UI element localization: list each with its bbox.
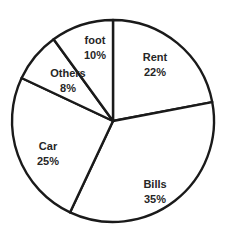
slice-label-name: Car [39, 140, 58, 152]
pie-chart-svg: Rent22%Bills35%Car25%Others8%foot10% [0, 0, 227, 242]
slice-label-percent: 35% [144, 193, 166, 205]
pie-chart-figure: Rent22%Bills35%Car25%Others8%foot10% [0, 0, 227, 242]
slice-label-percent: 25% [37, 155, 59, 167]
slice-label-name: Rent [143, 51, 168, 63]
slice-label-name: Bills [143, 178, 166, 190]
slice-label-percent: 22% [144, 66, 166, 78]
slice-label-name: Others [50, 67, 85, 79]
slice-label-percent: 10% [84, 49, 106, 61]
pie-slice-layer [12, 20, 214, 222]
slice-label-name: foot [85, 34, 106, 46]
slice-label-percent: 8% [60, 82, 76, 94]
